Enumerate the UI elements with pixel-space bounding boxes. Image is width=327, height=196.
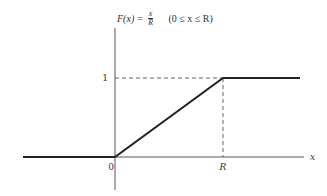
x-axis-label: x (310, 152, 315, 162)
x-tick-0: 0 (108, 162, 114, 172)
y-tick-1: 1 (102, 73, 108, 83)
cdf-curve (23, 78, 300, 157)
formula-lhs: F(x) (117, 13, 134, 24)
x-tick-R: R (219, 162, 227, 172)
formula-equals: = (137, 13, 143, 24)
function-formula: F(x) = x R (0 ≤ x ≤ R) (117, 6, 213, 30)
cdf-figure: F(x) = x R (0 ≤ x ≤ R) 0 R 1 x (0, 0, 327, 196)
formula-denominator: R (148, 19, 153, 27)
formula-fraction: x R (148, 10, 154, 27)
formula-condition: (0 ≤ x ≤ R) (168, 13, 212, 24)
